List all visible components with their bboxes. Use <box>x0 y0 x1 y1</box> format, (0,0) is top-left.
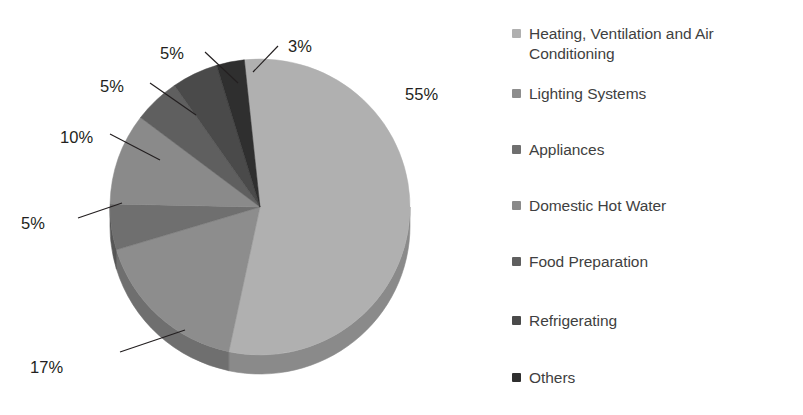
legend-swatch-icon <box>512 29 521 38</box>
legend-item-label: Domestic Hot Water <box>529 196 666 216</box>
pie-data-label-7: 3% <box>288 37 312 56</box>
pie-data-label-5: 5% <box>100 77 124 96</box>
legend-swatch-icon <box>512 316 521 325</box>
legend-swatch-icon <box>512 89 521 98</box>
legend-item-3[interactable]: Appliances <box>512 140 797 160</box>
legend-item-6[interactable]: Refrigerating <box>512 311 797 331</box>
legend-item-7[interactable]: Others <box>512 368 797 388</box>
legend-item-4[interactable]: Domestic Hot Water <box>512 196 797 216</box>
pie-data-label-3: 5% <box>21 214 45 233</box>
pie-chart-figure: Heating, Ventilation and Air Conditionin… <box>0 0 803 415</box>
legend-swatch-icon <box>512 201 521 210</box>
legend-item-label: Refrigerating <box>529 311 617 331</box>
chart-plot-area: Heating, Ventilation and Air Conditionin… <box>0 0 500 415</box>
pie-data-label-2: 17% <box>30 358 63 377</box>
legend-item-label: Heating, Ventilation and Air Conditionin… <box>529 24 797 63</box>
chart-legend: Heating, Ventilation and Air Conditionin… <box>512 0 803 415</box>
pie-data-label-4: 10% <box>60 128 93 147</box>
legend-item-label: Appliances <box>529 140 604 160</box>
legend-item-5[interactable]: Food Preparation <box>512 252 797 272</box>
legend-item-label: Lighting Systems <box>529 84 646 104</box>
legend-item-label: Others <box>529 368 575 388</box>
pie-data-label-1: 55% <box>405 85 438 104</box>
legend-item-1[interactable]: Heating, Ventilation and Air Conditionin… <box>512 24 797 63</box>
pie-data-label-6: 5% <box>160 44 184 63</box>
legend-item-2[interactable]: Lighting Systems <box>512 84 797 104</box>
legend-swatch-icon <box>512 373 521 382</box>
legend-swatch-icon <box>512 257 521 266</box>
pie-chart-svg: Heating, Ventilation and Air Conditionin… <box>0 0 500 415</box>
legend-swatch-icon <box>512 145 521 154</box>
legend-item-label: Food Preparation <box>529 252 648 272</box>
